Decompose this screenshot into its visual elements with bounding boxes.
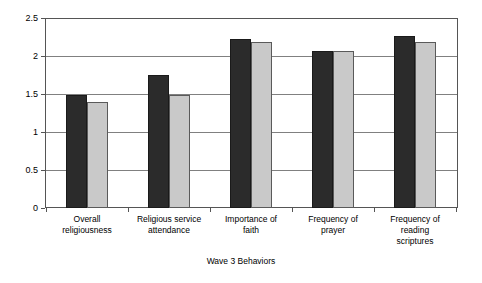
x-tick-mark-2: [210, 208, 211, 212]
bar-group-frequency-of-reading-scriptures: [374, 18, 456, 208]
bar-group-overall-religiousness: [46, 18, 128, 208]
y-axis-label-1: 1: [16, 128, 38, 137]
y-axis-label-0_5: 0.5: [16, 166, 38, 175]
x-axis-category-label-5-line-2: reading: [369, 225, 461, 236]
y-axis-label-0: 0: [16, 204, 38, 213]
x-axis-category-label-5-line-3: scriptures: [369, 236, 461, 247]
x-axis-category-label-2-line-1: Religious service: [123, 214, 215, 225]
bar-group-frequency-of-prayer: [292, 18, 374, 208]
x-axis-category-label-4-line-2: prayer: [287, 225, 379, 236]
x-tick-mark-0: [46, 208, 47, 212]
x-axis-category-label-2: Religious service attendance: [123, 214, 215, 236]
x-axis-category-label-4-line-1: Frequency of: [287, 214, 379, 225]
y-tick-mark-1: [41, 132, 45, 133]
y-tick-mark-0: [41, 208, 45, 209]
bar-dark-2[interactable]: [148, 75, 169, 208]
y-axis-label-2: 2: [16, 52, 38, 61]
y-tick-mark-1_5: [41, 94, 45, 95]
x-axis-title: Wave 3 Behaviors: [0, 256, 482, 267]
x-axis-category-label-5: Frequency of reading scriptures: [369, 214, 461, 247]
bar-light-1[interactable]: [87, 102, 108, 208]
x-axis-category-label-1-line-1: Overall: [41, 214, 133, 225]
bar-light-5[interactable]: [415, 42, 436, 208]
y-axis-label-2_5: 2.5: [16, 14, 38, 23]
x-axis-category-label-2-line-2: attendance: [123, 225, 215, 236]
bar-dark-1[interactable]: [66, 95, 87, 208]
y-axis-label-1_5: 1.5: [16, 90, 38, 99]
x-axis-category-label-5-line-1: Frequency of: [369, 214, 461, 225]
bar-light-2[interactable]: [169, 95, 190, 208]
x-tick-mark-4: [374, 208, 375, 212]
bar-dark-5[interactable]: [394, 36, 415, 208]
x-axis-category-label-1: Overall religiousness: [41, 214, 133, 236]
x-axis-category-label-1-line-2: religiousness: [41, 225, 133, 236]
bar-dark-4[interactable]: [312, 51, 333, 208]
bar-light-3[interactable]: [251, 42, 272, 208]
x-axis-category-label-3-line-2: faith: [205, 225, 297, 236]
bars-layer: [46, 18, 457, 208]
bar-group-religious-service-attendance: [128, 18, 210, 208]
x-tick-mark-3: [292, 208, 293, 212]
bar-chart: 2.5 2 1.5 1 0.5 0 Over: [0, 0, 482, 283]
x-axis-category-label-3-line-1: Importance of: [205, 214, 297, 225]
y-tick-mark-2_5: [41, 18, 45, 19]
x-axis-category-label-4: Frequency of prayer: [287, 214, 379, 236]
x-tick-mark-1: [128, 208, 129, 212]
bar-dark-3[interactable]: [230, 39, 251, 208]
bar-light-4[interactable]: [333, 51, 354, 208]
bar-group-importance-of-faith: [210, 18, 292, 208]
x-tick-mark-5: [456, 208, 457, 212]
x-axis-category-label-3: Importance of faith: [205, 214, 297, 236]
y-tick-mark-2: [41, 56, 45, 57]
y-tick-mark-0_5: [41, 170, 45, 171]
